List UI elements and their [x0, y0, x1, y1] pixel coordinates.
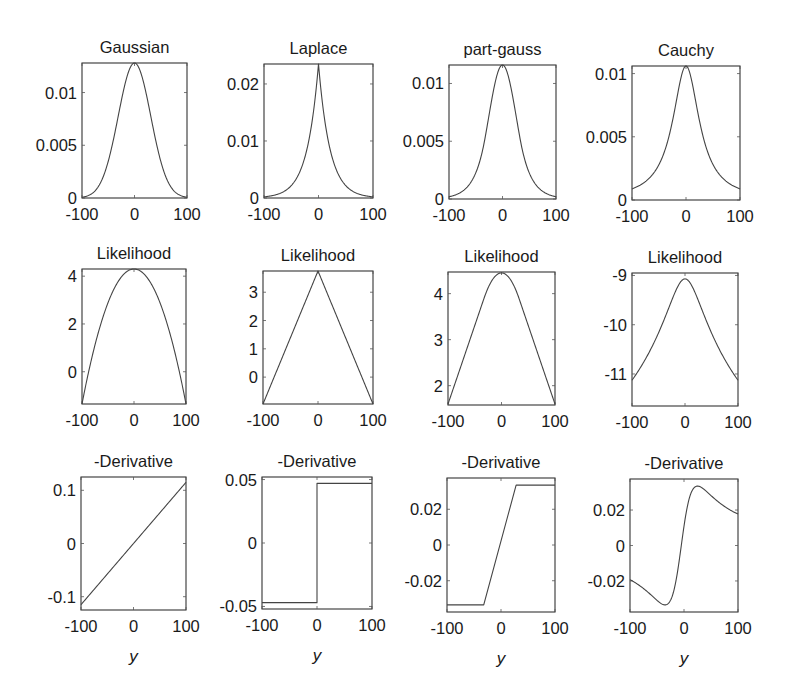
y-tick-label: 0.02 [410, 500, 442, 518]
y-tick-label: 0 [250, 189, 259, 207]
subplot-title: part-gauss [464, 40, 542, 58]
y-tick-label: 0 [616, 537, 625, 555]
y-tick-label: 0.01 [595, 65, 627, 83]
x-tick-label: 100 [172, 617, 200, 635]
y-tick-label: 0 [248, 534, 257, 552]
x-tick-label: 0 [498, 206, 507, 224]
y-tick-label: 0.01 [227, 132, 259, 150]
axes-frame [632, 273, 738, 406]
subplot-title: -Derivative [645, 454, 724, 472]
axes-frame [263, 271, 373, 404]
subplot-part-gauss-likelihood: Likelihood-1000100234 [431, 247, 568, 430]
x-tick-label: 0 [679, 619, 688, 637]
x-tick-label: -100 [615, 207, 648, 225]
subplot-title: Cauchy [658, 41, 715, 59]
subplot-title: Laplace [290, 39, 348, 57]
y-tick-label: -10 [603, 316, 627, 334]
y-tick-label: 0.005 [36, 136, 77, 154]
y-tick-label: 0.05 [225, 471, 257, 489]
subplot-gaussian-density: Gaussian-100010000.0050.01 [36, 38, 201, 223]
x-tick-label: 100 [172, 411, 200, 429]
x-tick-label: 100 [724, 413, 752, 431]
figure: Gaussian-100010000.0050.01Laplace-100010… [0, 0, 789, 698]
x-tick-label: 0 [130, 205, 139, 223]
subplot-gaussian-likelihood: Likelihood-1000100024 [65, 244, 199, 429]
series-line [82, 269, 186, 404]
x-tick-label: 100 [541, 619, 569, 637]
subplot-laplace-likelihood: Likelihood-10001000123 [246, 246, 386, 429]
x-tick-label: -100 [431, 412, 464, 430]
x-tick-label: -100 [245, 616, 278, 634]
subplot-title: Likelihood [281, 246, 355, 264]
subplot-title: Likelihood [648, 248, 722, 266]
y-tick-label: 3 [434, 331, 443, 349]
x-tick-label: -100 [432, 206, 465, 224]
y-tick-label: -11 [604, 365, 627, 383]
y-tick-label: 2 [434, 377, 443, 395]
subplot-title: Likelihood [97, 244, 171, 262]
x-tick-label: 100 [359, 205, 387, 223]
x-tick-label: -100 [615, 413, 648, 431]
y-tick-label: 0.02 [227, 75, 259, 93]
x-tick-label: -100 [65, 205, 98, 223]
x-tick-label: 100 [541, 412, 569, 430]
x-tick-label: -100 [65, 411, 98, 429]
axes-frame [448, 272, 555, 405]
y-tick-label: 0.02 [593, 501, 625, 519]
x-tick-label: -100 [430, 619, 463, 637]
y-tick-label: 0 [618, 191, 627, 209]
series-line [264, 64, 373, 197]
x-axis-label: y [496, 649, 507, 668]
subplot-part-gauss-derivative: -Derivative-1000100-0.0200.02y [404, 453, 568, 668]
x-tick-label: 100 [726, 207, 754, 225]
x-tick-label: -100 [64, 617, 97, 635]
series-line [447, 485, 555, 605]
y-tick-label: -0.02 [587, 572, 625, 590]
subplot-laplace-derivative: -Derivative-1000100-0.0500.05y [219, 452, 385, 665]
x-tick-label: 100 [359, 411, 387, 429]
y-tick-label: -0.1 [48, 588, 76, 606]
x-tick-label: 0 [680, 413, 689, 431]
x-tick-label: 100 [358, 616, 386, 634]
y-tick-label: 1 [249, 340, 258, 358]
series-line [263, 271, 373, 404]
x-tick-label: 0 [129, 411, 138, 429]
x-tick-label: 0 [129, 617, 138, 635]
y-tick-label: 0 [435, 190, 444, 208]
x-tick-label: 0 [314, 205, 323, 223]
y-tick-label: 2 [68, 315, 77, 333]
axes-frame [449, 65, 556, 199]
y-tick-label: 0 [68, 363, 77, 381]
series-line [448, 273, 555, 404]
subplot-part-gauss-density: part-gauss-100010000.0050.01 [403, 40, 570, 224]
x-tick-label: 0 [497, 412, 506, 430]
x-tick-label: -100 [246, 411, 279, 429]
y-tick-label: -0.02 [404, 572, 442, 590]
y-tick-label: 0.01 [45, 84, 77, 102]
subplot-title: -Derivative [462, 453, 541, 471]
y-tick-label: 0.1 [53, 481, 76, 499]
series-line [632, 66, 740, 189]
series-line [81, 482, 186, 604]
axes-frame [630, 479, 738, 612]
subplot-laplace-density: Laplace-100010000.010.02 [227, 39, 387, 223]
x-tick-label: -100 [247, 205, 280, 223]
subplot-cauchy-likelihood: Likelihood-1000100-11-10-9 [603, 248, 752, 431]
axes-frame [82, 63, 187, 198]
y-tick-label: 0 [67, 535, 76, 553]
y-tick-label: 0 [68, 189, 77, 207]
x-tick-label: 0 [496, 619, 505, 637]
axes-frame [447, 478, 555, 612]
x-tick-label: 100 [724, 619, 752, 637]
x-tick-label: 0 [312, 616, 321, 634]
subplot-title: -Derivative [94, 452, 173, 470]
y-tick-label: 2 [249, 312, 258, 330]
y-tick-label: 0.005 [586, 128, 627, 146]
y-tick-label: 4 [68, 267, 77, 285]
subplot-gaussian-derivative: -Derivative-1000100-0.100.1y [48, 452, 200, 666]
series-line [630, 486, 738, 605]
series-line [82, 63, 187, 197]
x-tick-label: 100 [173, 205, 201, 223]
series-line [632, 279, 738, 380]
y-tick-label: 0.01 [412, 74, 444, 92]
